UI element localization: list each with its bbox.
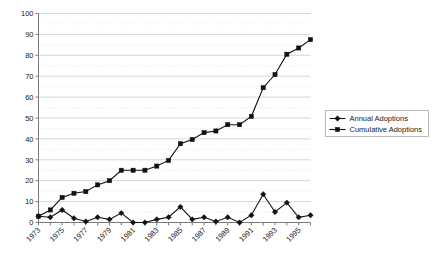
y-tick-label-10: 10 bbox=[25, 197, 33, 206]
data-point-annual-1991 bbox=[249, 212, 254, 217]
y-tick-label-80: 80 bbox=[25, 51, 33, 60]
x-tick-label-1981: 1981 bbox=[119, 226, 137, 244]
data-point-cumulative-1975 bbox=[60, 195, 64, 199]
series-line-cumulative-adoptions bbox=[39, 40, 311, 217]
data-point-cumulative-1976 bbox=[72, 191, 76, 195]
data-point-annual-1987 bbox=[201, 215, 206, 220]
data-point-annual-1990 bbox=[237, 220, 242, 225]
x-tick-label-1979: 1979 bbox=[95, 226, 113, 244]
y-tick-label-70: 70 bbox=[25, 72, 33, 81]
data-point-cumulative-1988 bbox=[214, 129, 218, 133]
data-point-cumulative-1978 bbox=[96, 183, 100, 187]
data-point-cumulative-1991 bbox=[249, 114, 253, 118]
data-point-annual-1996 bbox=[308, 212, 313, 217]
x-tick-label-1975: 1975 bbox=[48, 226, 66, 244]
grid-lines bbox=[39, 14, 311, 213]
y-tick-label-50: 50 bbox=[25, 114, 33, 123]
x-tick-label-1987: 1987 bbox=[190, 226, 208, 244]
data-point-cumulative-1974 bbox=[48, 208, 52, 212]
data-point-annual-1983 bbox=[154, 217, 159, 222]
series-line-annual-adoptions bbox=[39, 194, 311, 222]
data-point-annual-1989 bbox=[225, 215, 230, 220]
data-point-annual-1979 bbox=[107, 217, 112, 222]
y-tick-label-0: 0 bbox=[29, 218, 33, 227]
data-point-cumulative-1996 bbox=[308, 38, 312, 42]
chart-container: 0102030405060708090100 19731975197719791… bbox=[0, 0, 440, 274]
data-point-annual-1978 bbox=[95, 215, 100, 220]
x-tick-label-1977: 1977 bbox=[72, 226, 90, 244]
legend-label-annual-adoptions: Annual Adoptions bbox=[350, 114, 409, 123]
x-tick-label-1985: 1985 bbox=[166, 226, 184, 244]
x-tick-label-1993: 1993 bbox=[261, 226, 279, 244]
data-point-cumulative-1994 bbox=[285, 52, 289, 56]
x-tick-label-1973: 1973 bbox=[24, 226, 42, 244]
y-tick-label-100: 100 bbox=[21, 9, 34, 18]
series-annual-adoptions bbox=[36, 192, 313, 226]
data-point-cumulative-1992 bbox=[261, 86, 265, 90]
data-point-annual-1974 bbox=[48, 215, 53, 220]
data-point-cumulative-1981 bbox=[131, 168, 135, 172]
data-point-cumulative-1977 bbox=[84, 189, 88, 193]
data-point-cumulative-1995 bbox=[297, 46, 301, 50]
legend-marker-square-icon bbox=[335, 127, 339, 131]
data-point-cumulative-1993 bbox=[273, 72, 277, 76]
y-tick-label-20: 20 bbox=[25, 176, 33, 185]
x-tick-label-1991: 1991 bbox=[237, 226, 255, 244]
chart-legend: Annual AdoptionsCumulative Adoptions bbox=[326, 111, 429, 137]
x-tick-label-1995: 1995 bbox=[284, 226, 302, 244]
data-point-cumulative-1979 bbox=[107, 179, 111, 183]
y-tick-label-30: 30 bbox=[25, 156, 33, 165]
data-point-cumulative-1989 bbox=[226, 123, 230, 127]
y-tick-label-90: 90 bbox=[25, 30, 33, 39]
line-chart: 0102030405060708090100 19731975197719791… bbox=[0, 0, 440, 274]
y-tick-label-40: 40 bbox=[25, 135, 33, 144]
legend-label-cumulative-adoptions: Cumulative Adoptions bbox=[350, 125, 423, 134]
x-tick-label-1983: 1983 bbox=[143, 226, 161, 244]
data-point-cumulative-1987 bbox=[202, 131, 206, 135]
data-point-cumulative-1983 bbox=[155, 164, 159, 168]
data-point-cumulative-1990 bbox=[237, 123, 241, 127]
x-axis-tick-labels: 1973197519771979198119831985198719891991… bbox=[24, 226, 302, 244]
data-point-cumulative-1986 bbox=[190, 137, 194, 141]
y-tick-label-60: 60 bbox=[25, 93, 33, 102]
data-point-cumulative-1982 bbox=[143, 168, 147, 172]
data-point-annual-1988 bbox=[213, 219, 218, 224]
y-axis-tick-labels: 0102030405060708090100 bbox=[21, 9, 34, 227]
data-point-cumulative-1985 bbox=[178, 142, 182, 146]
data-point-cumulative-1980 bbox=[119, 168, 123, 172]
x-tick-label-1989: 1989 bbox=[213, 226, 231, 244]
data-point-annual-1982 bbox=[142, 220, 147, 225]
data-point-annual-1977 bbox=[83, 219, 88, 224]
data-point-cumulative-1984 bbox=[166, 158, 170, 162]
